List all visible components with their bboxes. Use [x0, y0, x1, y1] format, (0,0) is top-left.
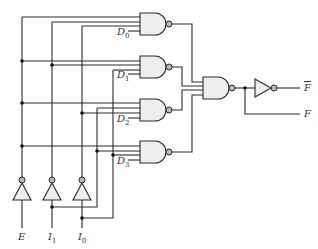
nand-gate-2	[140, 99, 172, 121]
label-F-bar: F	[304, 83, 311, 93]
wire-I1	[52, 108, 97, 207]
label-E: E	[18, 232, 25, 242]
wire-F	[245, 88, 300, 114]
output-inverter	[255, 79, 277, 97]
nand-gate-3	[140, 141, 172, 163]
label-I0: I0	[78, 232, 86, 245]
label-D3: D3	[117, 156, 130, 169]
label-D0: D0	[117, 27, 130, 40]
inverter-E	[13, 177, 31, 200]
nand-gate-1	[140, 56, 172, 78]
label-I1: I1	[48, 232, 56, 245]
label-F: F	[304, 109, 311, 119]
inverter-I1	[43, 177, 61, 200]
inverter-I0	[73, 177, 91, 200]
nand-gate-final	[203, 77, 235, 99]
circuit-wires-and-gates	[0, 0, 318, 249]
nand-gate-0	[140, 13, 172, 35]
logic-circuit-diagram: D0 D1 D2 D3 E I1 I0 F F	[0, 0, 318, 249]
label-D1: D1	[117, 70, 130, 83]
label-D2: D2	[117, 114, 130, 127]
